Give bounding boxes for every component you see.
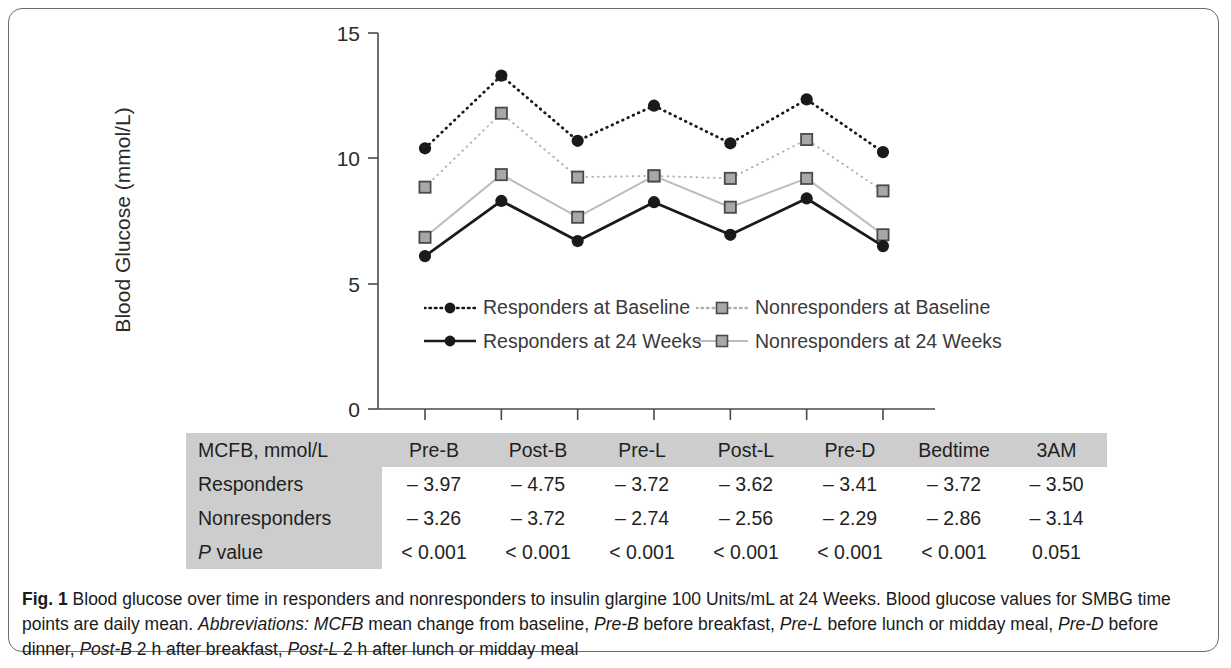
data-point: [419, 182, 430, 193]
y-axis-ticks: [368, 33, 378, 409]
data-point: [572, 172, 583, 183]
data-point: [496, 169, 507, 180]
data-point: [877, 229, 888, 240]
table-row-nonresponders: Nonresponders – 3.26 – 3.72 – 2.74 – 2.5…: [186, 501, 1107, 535]
cell-responders-post-b: – 4.75: [486, 467, 590, 501]
data-point: [801, 93, 813, 105]
table-header-cell-post-l: Post-L: [694, 433, 798, 467]
cell-responders-post-l: – 3.62: [694, 467, 798, 501]
table-header-cell-pre-d: Pre-D: [798, 433, 902, 467]
caption-def-pre-b: before breakfast,: [639, 614, 780, 634]
data-point: [572, 235, 584, 247]
caption-term-pre-d: Pre-D: [1058, 614, 1104, 634]
cell-pvalue-pre-d: < 0.001: [798, 535, 902, 569]
cell-nonresponders-bedtime: – 2.86: [902, 501, 1006, 535]
y-tick-label-15: 15: [337, 22, 360, 45]
cell-responders-pre-d: – 3.41: [798, 467, 902, 501]
data-point: [877, 185, 888, 196]
cell-nonresponders-pre-l: – 2.74: [590, 501, 694, 535]
caption-term-pre-b: Pre-B: [594, 614, 639, 634]
cell-nonresponders-post-b: – 3.72: [486, 501, 590, 535]
legend-item-responders-24weeks: Responders at 24 Weeks: [424, 332, 696, 352]
data-point: [419, 142, 431, 154]
legend-label-nonresponders-24weeks: Nonresponders at 24 Weeks: [755, 332, 1002, 352]
table-row-responders: Responders – 3.97 – 4.75 – 3.72 – 3.62 –…: [186, 467, 1107, 501]
data-point: [419, 250, 431, 262]
series-responders-at-baseline: [419, 70, 889, 159]
data-point: [801, 134, 812, 145]
p-italic: P: [198, 541, 211, 563]
cell-nonresponders-pre-b: – 3.26: [382, 501, 486, 535]
table-header-cell-pre-b: Pre-B: [382, 433, 486, 467]
y-tick-label-0: 0: [348, 398, 360, 420]
data-point: [496, 108, 507, 119]
line-chart-svg: 15 10 5 0: [0, 0, 1231, 420]
cell-pvalue-3am: 0.051: [1006, 535, 1107, 569]
cell-pvalue-pre-b: < 0.001: [382, 535, 486, 569]
data-point: [648, 196, 660, 208]
y-tick-label-5: 5: [348, 273, 360, 296]
data-point: [648, 170, 659, 181]
cell-responders-3am: – 3.50: [1006, 467, 1107, 501]
data-point: [572, 135, 584, 147]
cell-nonresponders-3am: – 3.14: [1006, 501, 1107, 535]
legend-item-nonresponders-24weeks: Nonresponders at 24 Weeks: [696, 332, 996, 352]
caption-def-mcfb: mean change from baseline,: [363, 614, 594, 634]
legend-item-nonresponders-baseline: Nonresponders at Baseline: [696, 298, 996, 318]
cell-pvalue-pre-l: < 0.001: [590, 535, 694, 569]
data-point: [877, 240, 889, 252]
data-series-layer: [419, 70, 889, 263]
row-label-nonresponders: Nonresponders: [186, 501, 382, 535]
legend-label-nonresponders-baseline: Nonresponders at Baseline: [755, 298, 990, 318]
legend-marker-nonresponders-baseline: [696, 300, 748, 316]
legend-label-responders-24weeks: Responders at 24 Weeks: [483, 332, 702, 352]
cell-pvalue-post-b: < 0.001: [486, 535, 590, 569]
cell-responders-pre-b: – 3.97: [382, 467, 486, 501]
p-value-label-rest: value: [211, 541, 263, 563]
y-tick-label-10: 10: [337, 147, 360, 170]
cell-pvalue-bedtime: < 0.001: [902, 535, 1006, 569]
cell-nonresponders-post-l: – 2.56: [694, 501, 798, 535]
row-label-responders: Responders: [186, 467, 382, 501]
data-point: [648, 100, 660, 112]
cell-nonresponders-pre-d: – 2.29: [798, 501, 902, 535]
data-point: [724, 229, 736, 241]
legend-label-responders-baseline: Responders at Baseline: [483, 298, 690, 318]
legend-marker-responders-baseline: [424, 300, 476, 316]
caption-def-post-b: 2 h after breakfast,: [132, 639, 288, 659]
table-header-cell-3am: 3AM: [1006, 433, 1107, 467]
caption-figure-number: Fig. 1: [22, 589, 68, 609]
table-header-cell-bedtime: Bedtime: [902, 433, 1006, 467]
data-point: [801, 173, 812, 184]
table-header-cell-title: MCFB, mmol/L: [186, 433, 382, 467]
cell-responders-pre-l: – 3.72: [590, 467, 694, 501]
table-header-cell-pre-l: Pre-L: [590, 433, 694, 467]
x-axis-ticks: [425, 409, 883, 420]
data-point: [801, 192, 813, 204]
data-point: [725, 202, 736, 213]
legend-marker-responders-24weeks: [424, 333, 476, 349]
series-responders-at-24-weeks: [419, 192, 889, 262]
legend-item-responders-baseline: Responders at Baseline: [424, 298, 696, 318]
caption-term-post-l: Post-L: [288, 639, 339, 659]
caption-term-pre-l: Pre-L: [780, 614, 823, 634]
figure-caption: Fig. 1 Blood glucose over time in respon…: [22, 587, 1207, 662]
caption-def-post-l: 2 h after lunch or midday meal: [338, 639, 578, 659]
caption-term-post-b: Post-B: [79, 639, 132, 659]
data-point: [724, 137, 736, 149]
caption-abbreviations-label: Abbreviations:: [198, 614, 309, 634]
mcfb-data-table: MCFB, mmol/L Pre-B Post-B Pre-L Post-L P…: [186, 433, 1107, 569]
chart-plot-area: Blood Glucose (mmol/L) 15 10 5 0: [0, 0, 1231, 420]
caption-term-mcfb: MCFB: [314, 614, 364, 634]
table-header-row: MCFB, mmol/L Pre-B Post-B Pre-L Post-L P…: [186, 433, 1107, 467]
caption-def-pre-l: before lunch or midday meal,: [823, 614, 1058, 634]
figure-container: Blood Glucose (mmol/L) 15 10 5 0: [0, 0, 1231, 668]
table-header-cell-post-b: Post-B: [486, 433, 590, 467]
legend-marker-nonresponders-24weeks: [696, 333, 748, 349]
row-label-p-value: P value: [186, 535, 382, 569]
data-point: [572, 212, 583, 223]
data-point: [495, 195, 507, 207]
table-row-p-value: P value < 0.001 < 0.001 < 0.001 < 0.001 …: [186, 535, 1107, 569]
data-point: [495, 70, 507, 82]
data-point: [877, 146, 889, 158]
